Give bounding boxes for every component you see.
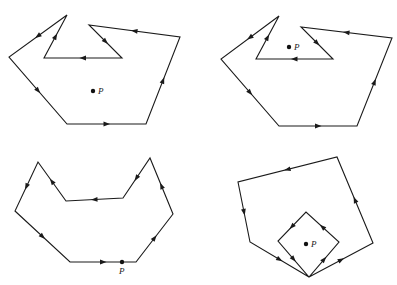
direction-arrow-icon	[343, 30, 350, 36]
point-label: P	[118, 266, 125, 276]
panel-top-right: P	[221, 16, 392, 128]
direction-arrow-icon	[104, 122, 111, 127]
direction-arrow-icon	[100, 260, 107, 265]
direction-arrow-icon	[291, 57, 298, 62]
panel-top-left: P	[9, 15, 180, 126]
closed-curve	[9, 15, 180, 124]
direction-arrow-icon	[160, 76, 167, 84]
direction-arrow-icon	[315, 124, 322, 129]
direction-arrow-icon	[158, 182, 165, 190]
point-label: P	[97, 86, 104, 96]
point-label: P	[293, 42, 300, 52]
curves-figure: P P P P	[0, 0, 397, 285]
diagram-stage: P P P P	[0, 0, 397, 285]
direction-arrow-icon	[284, 166, 291, 172]
direction-arrow-icon	[351, 196, 358, 204]
point-p	[120, 260, 124, 264]
point-p	[287, 45, 291, 49]
panel-bottom-left: P	[15, 158, 173, 276]
panel-bottom-right: P	[238, 157, 373, 277]
direction-arrow-icon	[371, 78, 378, 86]
direction-arrow-icon	[337, 256, 345, 263]
direction-arrow-icon	[276, 256, 284, 263]
closed-curve	[15, 158, 173, 262]
closed-curve	[221, 16, 392, 126]
direction-arrow-icon	[80, 56, 87, 61]
direction-arrow-icon	[133, 174, 141, 182]
direction-arrow-icon	[264, 33, 271, 41]
point-label: P	[310, 239, 317, 249]
direction-arrow-icon	[52, 32, 59, 40]
direction-arrow-icon	[91, 197, 98, 202]
direction-arrow-icon	[23, 183, 30, 191]
point-p	[304, 242, 308, 246]
closed-curve	[238, 157, 373, 277]
point-p	[91, 89, 95, 93]
